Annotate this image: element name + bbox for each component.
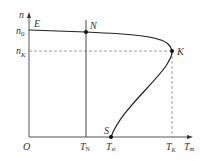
point-n-label: N [89, 20, 98, 31]
n0-label: n0 [16, 25, 25, 38]
point-s-label: S [104, 125, 109, 136]
x-axis-label: Tm [184, 141, 195, 152]
diagram-canvas: n n0 nK E N K S O TN Tst TK Tm [0, 0, 207, 161]
characteristic-curve [29, 30, 172, 137]
point-n [84, 30, 88, 34]
y-axis-arrow-icon [27, 12, 31, 18]
tn-label: TN [80, 141, 91, 152]
origin-label: O [23, 141, 30, 152]
nk-label: nK [16, 45, 26, 59]
x-axis-arrow-icon [187, 135, 193, 139]
point-s [109, 135, 113, 139]
point-e-label: E [33, 18, 40, 29]
point-k [170, 49, 174, 53]
point-k-label: K [176, 46, 185, 57]
tk-label: TK [166, 141, 177, 153]
y-axis-label: n [19, 9, 24, 20]
tst-label: Tst [106, 141, 116, 152]
